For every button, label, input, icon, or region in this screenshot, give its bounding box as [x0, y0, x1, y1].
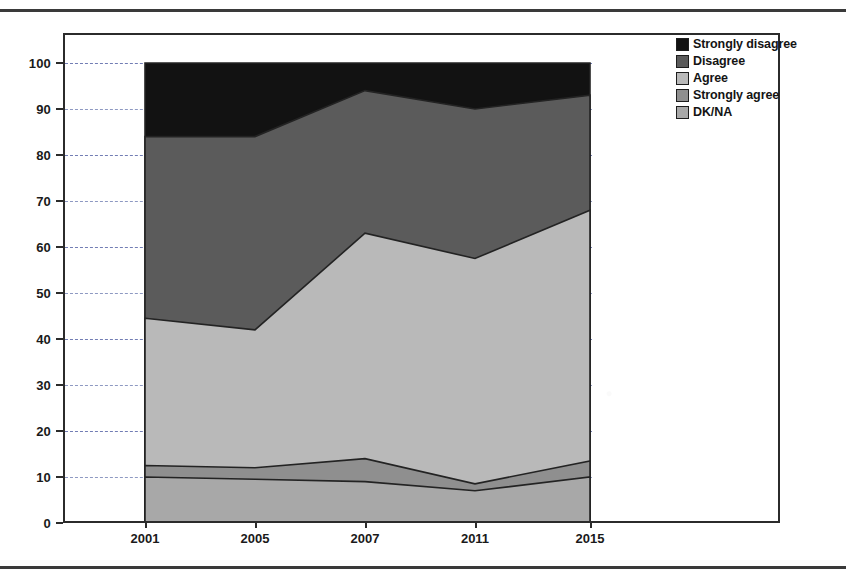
- legend-label: DK/NA: [693, 105, 732, 119]
- legend-item-disagree: Disagree: [676, 53, 842, 69]
- legend-label: Disagree: [693, 54, 745, 68]
- legend-item-strongly-agree: Strongly agree: [676, 87, 842, 103]
- y-tick-mark-10: [56, 476, 63, 478]
- y-tick-mark-50: [56, 292, 63, 294]
- y-tick-label-0: 0: [44, 516, 51, 531]
- x-tick-mark-2011: [475, 521, 477, 528]
- legend-swatch-icon: [676, 106, 689, 119]
- legend-swatch-icon: [676, 89, 689, 102]
- y-tick-label-40: 40: [36, 332, 51, 347]
- y-tick-mark-70: [56, 200, 63, 202]
- x-tick-mark-2005: [255, 521, 257, 528]
- y-tick-label-30: 30: [36, 378, 51, 393]
- y-tick-mark-40: [56, 338, 63, 340]
- x-tick-label-2011: 2011: [461, 531, 489, 546]
- y-tick-label-60: 60: [36, 240, 51, 255]
- stacked-area-series: [65, 35, 778, 521]
- legend-item-agree: Agree: [676, 70, 842, 86]
- y-tick-label-10: 10: [36, 470, 51, 485]
- x-tick-mark-2001: [145, 521, 147, 528]
- x-tick-label-2015: 2015: [576, 531, 605, 546]
- legend-swatch-icon: [676, 55, 689, 68]
- y-tick-label-50: 50: [36, 286, 51, 301]
- legend-swatch-icon: [676, 38, 689, 51]
- y-tick-label-90: 90: [36, 102, 51, 117]
- x-tick-label-2005: 2005: [241, 531, 270, 546]
- x-tick-label-2007: 2007: [351, 531, 380, 546]
- y-tick-mark-80: [56, 154, 63, 156]
- y-tick-mark-0: [56, 522, 63, 524]
- legend-swatch-icon: [676, 72, 689, 85]
- y-tick-mark-30: [56, 384, 63, 386]
- x-tick-label-2001: 2001: [131, 531, 160, 546]
- chart-legend: Strongly disagreeDisagreeAgreeStrongly a…: [676, 36, 842, 121]
- y-tick-label-20: 20: [36, 424, 51, 439]
- y-tick-mark-20: [56, 430, 63, 432]
- y-tick-mark-100: [56, 62, 63, 64]
- scan-top-rule: [0, 9, 846, 12]
- legend-item-dk-na: DK/NA: [676, 104, 842, 120]
- legend-label: Strongly disagree: [693, 37, 797, 51]
- y-tick-label-100: 100: [29, 56, 51, 71]
- chart-plot-area: [65, 35, 778, 521]
- y-axis: 0102030405060708090100: [0, 33, 63, 523]
- y-tick-label-70: 70: [36, 194, 51, 209]
- x-axis: 20012005200720112015: [65, 521, 778, 561]
- y-tick-mark-60: [56, 246, 63, 248]
- legend-label: Agree: [693, 71, 728, 85]
- y-tick-mark-90: [56, 108, 63, 110]
- x-tick-mark-2015: [590, 521, 592, 528]
- legend-item-strongly-disagree: Strongly disagree: [676, 36, 842, 52]
- legend-label: Strongly agree: [693, 88, 779, 102]
- x-tick-mark-2007: [365, 521, 367, 528]
- y-tick-label-80: 80: [36, 148, 51, 163]
- scan-bottom-rule: [0, 566, 846, 569]
